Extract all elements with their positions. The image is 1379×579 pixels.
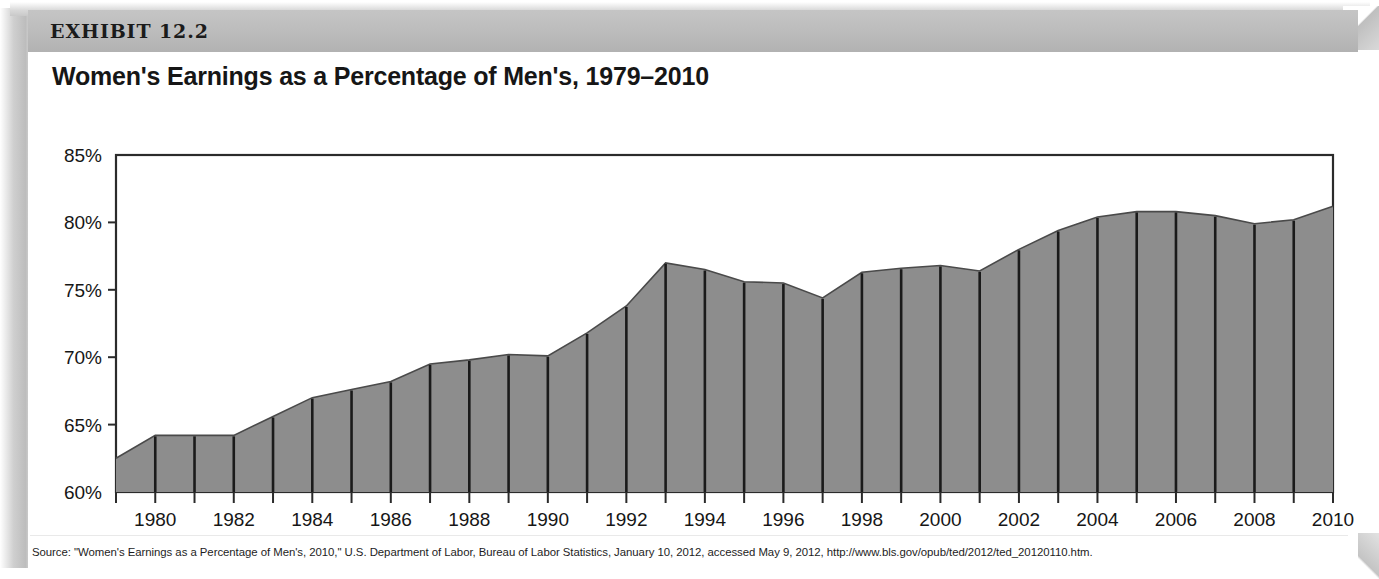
- x-tick-label: 1996: [762, 509, 804, 528]
- exhibit-page: EXHIBIT 12.2 Women's Earnings as a Perce…: [0, 0, 1379, 579]
- x-tick-label: 2002: [998, 509, 1040, 528]
- x-tick-label: 1990: [527, 509, 569, 528]
- x-tick-label: 1986: [370, 509, 412, 528]
- x-tick-label: 1984: [291, 509, 334, 528]
- y-tick-label: 80%: [64, 212, 102, 233]
- area-polygon: [116, 206, 1333, 492]
- y-tick-label: 65%: [64, 415, 102, 436]
- x-tick-label: 2010: [1312, 509, 1354, 528]
- x-tick-label: 1998: [841, 509, 883, 528]
- x-tick-label: 1994: [684, 509, 727, 528]
- x-tick-label: 2004: [1076, 509, 1119, 528]
- x-tick-label: 2000: [919, 509, 961, 528]
- exhibit-card: EXHIBIT 12.2 Women's Earnings as a Perce…: [28, 10, 1358, 570]
- source-divider: [30, 535, 1348, 536]
- x-tick-label: 1980: [134, 509, 176, 528]
- y-tick-label: 60%: [64, 482, 102, 503]
- x-tick-label: 1982: [213, 509, 255, 528]
- area-series-fill: [116, 206, 1333, 492]
- x-tick-label: 1992: [605, 509, 647, 528]
- source-citation: Source: "Women's Earnings as a Percentag…: [32, 546, 1352, 558]
- chart-canvas: 60%65%70%75%80%85% 198019821984198619881…: [28, 108, 1358, 528]
- exhibit-title: Women's Earnings as a Percentage of Men'…: [52, 62, 709, 91]
- y-axis-tick-labels: 60%65%70%75%80%85%: [64, 145, 102, 503]
- x-axis-tick-labels: 1980198219841986198819901992199419961998…: [134, 509, 1354, 528]
- x-tick-label: 2008: [1233, 509, 1275, 528]
- exhibit-header-bar: EXHIBIT 12.2: [28, 10, 1358, 52]
- y-tick-label: 75%: [64, 280, 102, 301]
- x-tick-label: 1988: [448, 509, 490, 528]
- x-tick-label: 2006: [1155, 509, 1197, 528]
- exhibit-number-label: EXHIBIT 12.2: [50, 20, 209, 42]
- area-chart: 60%65%70%75%80%85% 198019821984198619881…: [28, 108, 1358, 528]
- y-tick-label: 70%: [64, 347, 102, 368]
- y-tick-label: 85%: [64, 145, 102, 166]
